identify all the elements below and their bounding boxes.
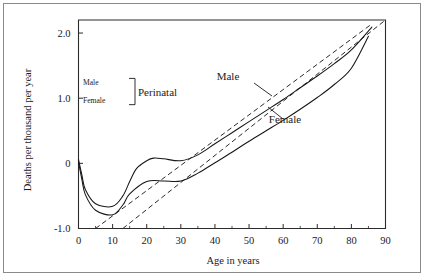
mortality-rate-chart: 0102030405060708090 -1.001.02.0 MaleFema… <box>0 0 425 277</box>
y-axis-title: Deaths per thousand per year <box>22 68 33 191</box>
x-tick-label: 20 <box>141 235 152 246</box>
key-label-male: Male <box>83 78 99 87</box>
y-axis-tick-labels: -1.001.02.0 <box>54 28 71 234</box>
y-tick-label: 1.0 <box>57 93 70 104</box>
x-tick-label: 60 <box>278 235 289 246</box>
key-brace <box>129 78 135 104</box>
perinatal-key: MaleFemalePerinatal <box>79 0 178 105</box>
figure-container: 0102030405060708090 -1.001.02.0 MaleFema… <box>0 0 425 277</box>
curve-annotations: MaleFemale <box>217 70 302 125</box>
plot-box <box>79 20 386 229</box>
curve-male <box>79 27 372 207</box>
asymptote-line-male-asymptote <box>96 24 372 229</box>
x-axis-ticks <box>79 224 386 229</box>
y-tick-label: 2.0 <box>57 28 70 39</box>
x-tick-label: 30 <box>176 235 187 246</box>
curve-female <box>79 36 369 215</box>
x-tick-label: 50 <box>244 235 255 246</box>
x-tick-label: 0 <box>76 235 81 246</box>
x-tick-label: 90 <box>380 235 391 246</box>
asymptote-lines <box>96 20 386 229</box>
male-curve-label-leader <box>254 83 272 96</box>
asymptote-line-female-asymptote <box>123 20 386 229</box>
x-axis-tick-labels: 0102030405060708090 <box>76 235 391 246</box>
x-tick-label: 40 <box>210 235 221 246</box>
data-point-markers <box>79 0 372 213</box>
x-axis-title: Age in years <box>206 255 259 266</box>
data-curves <box>79 27 372 215</box>
female-curve-label: Female <box>269 113 301 125</box>
key-title: Perinatal <box>138 86 177 98</box>
key-label-female: Female <box>83 96 106 105</box>
y-axis-ticks <box>79 33 84 228</box>
male-curve-label: Male <box>217 70 240 82</box>
x-tick-label: 80 <box>346 235 357 246</box>
x-tick-label: 10 <box>107 235 118 246</box>
y-tick-label: 0 <box>65 158 70 169</box>
y-tick-label: -1.0 <box>54 223 71 234</box>
plot-axes <box>79 20 386 229</box>
x-tick-label: 70 <box>312 235 323 246</box>
